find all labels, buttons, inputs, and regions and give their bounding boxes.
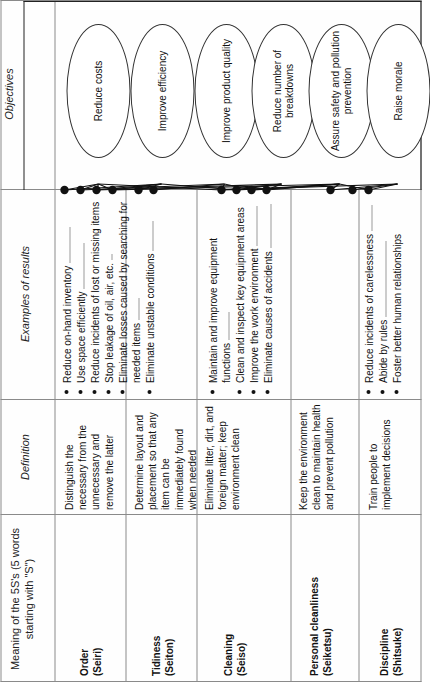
link-dot xyxy=(60,186,68,194)
link-dot xyxy=(76,186,84,194)
objective-label: Raise morale xyxy=(392,62,404,121)
link-dot xyxy=(326,186,334,194)
objective-label: Reduce costs xyxy=(92,61,104,122)
link-dot xyxy=(262,186,270,194)
objective-oval-reduce-breakdowns[interactable]: Reduce number of breakdowns xyxy=(251,24,315,158)
objective-label: Improve product quality xyxy=(220,39,232,143)
link-dot xyxy=(348,186,356,194)
objective-oval-assure-safety[interactable]: Assure safety and pollution prevention xyxy=(308,24,374,158)
objective-label: Reduce number of breakdowns xyxy=(271,25,295,157)
objective-label: Assure safety and pollution prevention xyxy=(329,25,353,157)
objective-label: Improve efficiency xyxy=(156,51,168,131)
objective-oval-improve-efficiency[interactable]: Improve efficiency xyxy=(130,24,194,158)
objective-oval-improve-product-quality[interactable]: Improve product quality xyxy=(194,24,258,158)
link-dot xyxy=(92,186,100,194)
objective-oval-reduce-costs[interactable]: Reduce costs xyxy=(66,24,130,158)
objective-oval-raise-morale[interactable]: Raise morale xyxy=(366,24,430,158)
